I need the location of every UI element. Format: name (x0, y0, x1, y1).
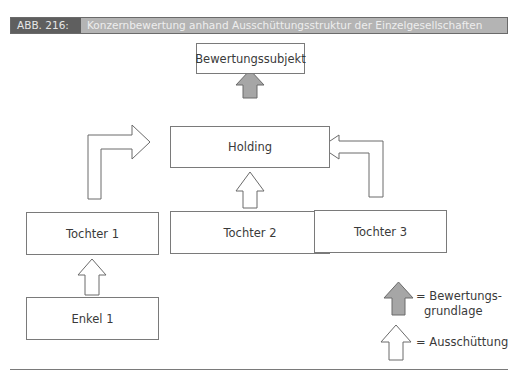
valuation-arrow-icon (236, 70, 264, 98)
node-holding: Holding (170, 126, 330, 168)
bottom-divider (10, 369, 508, 370)
distribution-elbow-arrow-icon (321, 135, 383, 197)
distribution-arrow-icon (236, 172, 264, 208)
node-enkel-1: Enkel 1 (26, 297, 159, 340)
distribution-arrow-icon (78, 259, 106, 295)
node-label: Tochter 2 (223, 226, 276, 240)
node-label: Tochter 3 (354, 225, 407, 239)
node-label: Bewertungssubjekt (195, 52, 306, 66)
distribution-elbow-arrow-icon (88, 125, 150, 199)
node-label: Tochter 1 (66, 227, 119, 241)
node-label: Holding (228, 140, 272, 154)
node-tochter-3: Tochter 3 (314, 210, 447, 253)
legend-valuation-arrow-icon (384, 282, 413, 315)
legend-distribution-arrow-icon (381, 325, 411, 360)
node-tochter-1: Tochter 1 (26, 212, 159, 255)
node-bewertungssubjekt: Bewertungssubjekt (196, 43, 305, 74)
node-tochter-2: Tochter 2 (170, 211, 330, 254)
legend-valuation-basis-label: = Bewertungs- grundlage (416, 289, 502, 319)
legend-distribution-label: = Ausschüttung (416, 335, 508, 350)
node-label: Enkel 1 (71, 312, 113, 326)
